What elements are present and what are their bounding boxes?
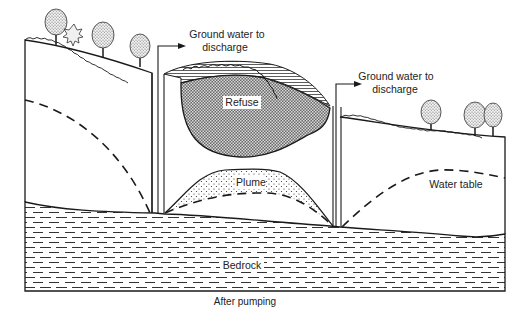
tree-icon [92,22,114,58]
bedrock-layer [25,202,505,291]
discharge-label-right-line1: Ground water to [358,70,433,82]
tree-icon [421,100,441,130]
plume-label: Plume [236,176,266,188]
right-well [333,81,362,227]
discharge-label-right-line2: discharge [372,83,418,95]
tree-icon [130,34,150,67]
left-discharge-arrow [158,46,180,52]
water-table-left [25,100,150,213]
discharge-label-left-line1: Ground water to [189,28,264,40]
discharge-label-left-line2: discharge [202,41,248,53]
arrow-head-icon [178,43,186,49]
tree-icon [464,102,486,136]
water-table-label: Water table [429,178,482,190]
left-ground-block [25,40,152,213]
right-surface-gravel [341,115,482,138]
tree-icon [484,103,502,136]
landfill-groundwater-diagram: Ground water to discharge Ground water t… [0,0,529,315]
bedrock-label: Bedrock [223,259,262,271]
figure-caption: After pumping [214,296,276,307]
right-ground-block [340,117,505,234]
tree-icon [45,9,67,46]
refuse-label: Refuse [225,96,258,108]
right-discharge-arrow [336,84,355,86]
